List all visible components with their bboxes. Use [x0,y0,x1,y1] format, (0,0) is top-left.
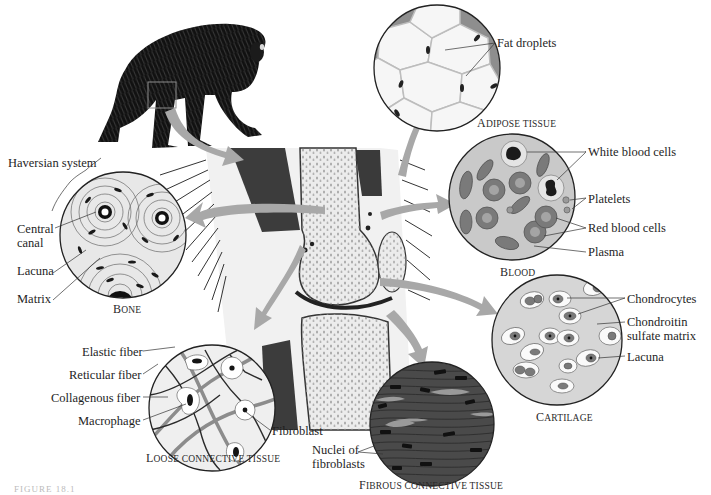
label-haversian-system: Haversian system [8,156,97,170]
caption-fibrous-connective-tissue: Fibrous connective tissue [359,478,503,493]
caption-cartilage: Cartilage [536,410,593,425]
label-chondroitin: Chondroitin [627,315,687,329]
label-plasma: Plasma [588,245,624,259]
blood-micrograph [449,134,586,260]
label-text: Haversian system [8,156,97,170]
label-collagenous-fiber: Collagenous fiber [51,391,140,405]
caption-loose-connective-tissue: Loose connective tissue [146,451,280,466]
figure-caption-cropped: FIGURE 18.1 [14,484,76,494]
label-bone-matrix: Matrix [17,292,51,306]
label-reticular-fiber: Reticular fiber [69,368,142,382]
cartilage-micrograph [492,275,625,405]
label-macrophage: Macrophage [78,414,140,428]
label-bone-lacuna: Lacuna [17,264,54,278]
label-elastic-fiber: Elastic fiber [82,345,143,359]
label-platelets: Platelets [588,192,630,206]
label-chondrocytes: Chondrocytes [627,292,696,306]
label-central-canal: Central canal [17,222,55,250]
caption-adipose-tissue: Adipose tissue [477,116,556,131]
caption-blood: Blood [500,265,535,280]
label-cartilage-lacuna: Lacuna [627,350,664,364]
label-fat-droplets: Fat droplets [497,36,556,50]
label-nuclei-of: Nuclei of [312,443,359,457]
label-fibroblasts: fibroblasts [312,457,365,471]
label-sulfate-matrix: sulfate matrix [627,329,696,343]
label-white-blood-cells: White blood cells [588,145,676,159]
label-red-blood-cells: Red blood cells [588,221,666,235]
label-fibroblast: Fibroblast [272,424,323,438]
caption-bone: Bone [113,302,141,317]
